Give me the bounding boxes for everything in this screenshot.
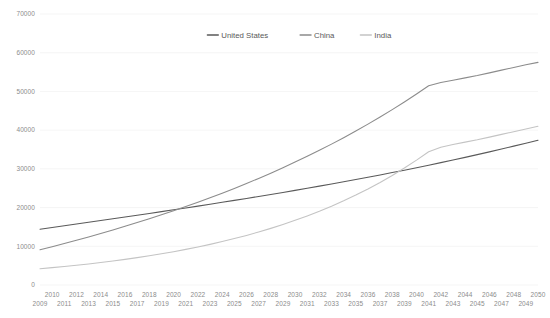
x-tick-label-2012: 2012 (69, 291, 84, 298)
legend-label-india: India (374, 31, 392, 40)
x-tick-label-2033: 2033 (324, 300, 339, 307)
x-tick-label-2047: 2047 (494, 300, 509, 307)
x-tick-label-2031: 2031 (300, 300, 315, 307)
x-tick-label-2027: 2027 (251, 300, 266, 307)
x-tick-label-2026: 2026 (239, 291, 254, 298)
y-tick-label-20000: 20000 (16, 204, 35, 211)
x-tick-label-2046: 2046 (482, 291, 497, 298)
legend-label-china: China (314, 31, 335, 40)
x-tick-label-2029: 2029 (275, 300, 290, 307)
x-tick-label-2036: 2036 (361, 291, 376, 298)
x-tick-label-2042: 2042 (433, 291, 448, 298)
y-tick-label-70000: 70000 (16, 10, 35, 17)
x-tick-label-2021: 2021 (178, 300, 193, 307)
x-tick-label-2034: 2034 (336, 291, 351, 298)
x-tick-label-2020: 2020 (166, 291, 181, 298)
x-tick-label-2010: 2010 (45, 291, 60, 298)
x-tick-label-2039: 2039 (397, 300, 412, 307)
x-tick-label-2019: 2019 (154, 300, 169, 307)
x-axis-tick-labels-bottom-row: 2009201120132015201720192021202320252027… (33, 300, 534, 307)
y-tick-label-30000: 30000 (16, 165, 35, 172)
x-tick-label-2044: 2044 (458, 291, 473, 298)
line-chart: 010000200003000040000500006000070000 201… (0, 0, 550, 318)
x-tick-label-2011: 2011 (57, 300, 72, 307)
x-tick-label-2049: 2049 (518, 300, 533, 307)
chart-background (0, 0, 550, 318)
x-tick-label-2032: 2032 (312, 291, 327, 298)
x-tick-label-2035: 2035 (348, 300, 363, 307)
x-tick-label-2018: 2018 (142, 291, 157, 298)
x-tick-label-2009: 2009 (33, 300, 48, 307)
x-tick-label-2013: 2013 (81, 300, 96, 307)
x-tick-label-2050: 2050 (531, 291, 546, 298)
y-tick-label-60000: 60000 (16, 49, 35, 56)
x-tick-label-2016: 2016 (118, 291, 133, 298)
x-tick-label-2040: 2040 (409, 291, 424, 298)
y-tick-label-50000: 50000 (16, 88, 35, 95)
x-tick-label-2048: 2048 (506, 291, 521, 298)
x-tick-label-2024: 2024 (215, 291, 230, 298)
x-tick-label-2030: 2030 (288, 291, 303, 298)
x-tick-label-2043: 2043 (446, 300, 461, 307)
x-tick-label-2028: 2028 (263, 291, 278, 298)
y-tick-label-40000: 40000 (16, 126, 35, 133)
y-tick-label-0: 0 (31, 281, 35, 288)
legend-label-united-states: United States (221, 31, 268, 40)
x-tick-label-2022: 2022 (190, 291, 205, 298)
x-tick-label-2014: 2014 (93, 291, 108, 298)
x-tick-label-2015: 2015 (105, 300, 120, 307)
chart-canvas: 010000200003000040000500006000070000 201… (0, 0, 550, 318)
x-tick-label-2038: 2038 (385, 291, 400, 298)
x-axis-tick-labels-top-row: 2010201220142016201820202022202420262028… (45, 291, 546, 298)
x-tick-label-2037: 2037 (373, 300, 388, 307)
x-tick-label-2023: 2023 (203, 300, 218, 307)
x-tick-label-2041: 2041 (421, 300, 436, 307)
x-tick-label-2017: 2017 (130, 300, 145, 307)
y-tick-label-10000: 10000 (16, 243, 35, 250)
x-tick-label-2025: 2025 (227, 300, 242, 307)
x-tick-label-2045: 2045 (470, 300, 485, 307)
